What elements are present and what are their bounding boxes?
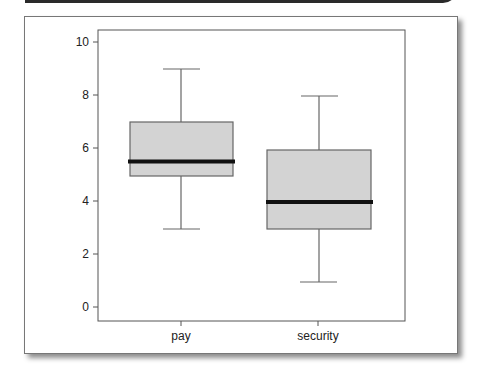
y-tick-label: 6	[82, 141, 89, 155]
boxplot-chart: 0 2 4 6 8 10 pay security	[0, 0, 482, 375]
y-tick-label: 8	[82, 88, 89, 102]
y-tick-label: 2	[82, 247, 89, 261]
y-tick-label: 0	[82, 300, 89, 314]
x-tick-label: pay	[171, 329, 190, 343]
x-tick-label: security	[297, 329, 338, 343]
y-tick-label: 4	[82, 194, 89, 208]
box-security	[266, 96, 373, 282]
y-axis: 0 2 4 6 8 10	[76, 35, 98, 314]
y-tick-label: 10	[76, 35, 90, 49]
x-axis: pay security	[171, 321, 338, 343]
box-pay	[128, 69, 235, 229]
